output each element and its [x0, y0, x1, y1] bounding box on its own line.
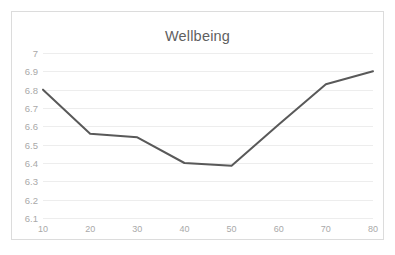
y-axis-tick-label: 7 [33, 48, 38, 59]
x-axis-tick-label: 60 [274, 224, 284, 234]
y-axis-tick-label: 6.5 [25, 139, 38, 150]
y-axis-tick-label: 6.6 [25, 121, 38, 132]
y-axis-tick-label: 6.4 [25, 158, 38, 169]
x-axis-tick-label: 20 [85, 224, 95, 234]
y-axis-tick-label: 6.8 [25, 84, 38, 95]
y-axis-tick-label: 6.3 [25, 176, 38, 187]
data-series-wellbeing [43, 53, 373, 218]
x-axis-tick-label: 10 [38, 224, 48, 234]
x-axis-tick-label: 30 [132, 224, 142, 234]
x-axis-tick-label: 40 [179, 224, 189, 234]
chart-container: Wellbeing 76.96.86.76.66.56.46.36.26.1 1… [11, 11, 384, 240]
y-axis-tick-label: 6.2 [25, 194, 38, 205]
y-axis-tick-label: 6.1 [25, 213, 38, 224]
gridline [43, 218, 373, 219]
x-axis-tick-label: 50 [227, 224, 237, 234]
y-axis-tick-label: 6.7 [25, 103, 38, 114]
chart-title: Wellbeing [12, 28, 383, 44]
line-path-wellbeing [43, 71, 373, 165]
x-axis-tick-label: 70 [321, 224, 331, 234]
y-axis-tick-label: 6.9 [25, 66, 38, 77]
plot-area: 76.96.86.76.66.56.46.36.26.1 10203040506… [43, 53, 373, 218]
x-axis-tick-label: 80 [368, 224, 378, 234]
